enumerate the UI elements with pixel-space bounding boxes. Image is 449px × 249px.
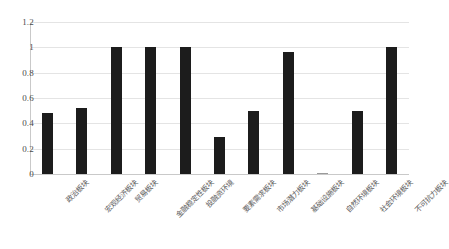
bar xyxy=(76,108,87,174)
y-axis-tick-label: 0.8 xyxy=(4,69,34,78)
bar xyxy=(214,137,225,174)
bar xyxy=(352,111,363,174)
bar xyxy=(283,52,294,174)
x-axis-tick-label-text: 政治板块 xyxy=(65,179,91,205)
gridline xyxy=(30,98,409,99)
x-axis-baseline xyxy=(30,174,409,175)
gridline xyxy=(30,22,409,23)
bar xyxy=(248,111,259,174)
plot-area xyxy=(30,22,409,174)
x-axis-tick-label: 不可抗力板块 xyxy=(413,179,449,215)
y-axis-tick-label: 0 xyxy=(4,170,34,179)
y-axis-tick-label: 0.4 xyxy=(4,119,34,128)
bar xyxy=(145,47,156,174)
y-axis-tick-label: 0.2 xyxy=(4,145,34,154)
y-axis-tick-label: 1 xyxy=(4,43,34,52)
x-axis-tick-label: 要素需求板块 xyxy=(241,179,277,215)
gridline xyxy=(30,47,409,48)
x-axis-tick-label: 政治板块 xyxy=(65,179,91,205)
x-axis-tick-label-text: 市场潜力板块 xyxy=(275,179,311,215)
x-axis-tick-label-text: 社会环境板块 xyxy=(379,179,415,215)
x-axis-tick-label: 基础设施板块 xyxy=(310,179,346,215)
x-axis-tick-label-text: 不可抗力板块 xyxy=(413,179,449,215)
bar xyxy=(317,173,328,175)
bar xyxy=(111,47,122,174)
bar xyxy=(180,47,191,174)
bar xyxy=(386,47,397,174)
gridline xyxy=(30,73,409,74)
x-axis-tick-label-text: 自然环境板块 xyxy=(344,179,380,215)
x-axis-tick-label-text: 基础设施板块 xyxy=(310,179,346,215)
y-axis-tick-label: 1.2 xyxy=(4,18,34,27)
x-axis-tick-label: 市场潜力板块 xyxy=(275,179,311,215)
x-axis-tick-label-text: 要素需求板块 xyxy=(241,179,277,215)
x-axis-tick-label: 自然环境板块 xyxy=(344,179,380,215)
y-axis-tick-label: 0.6 xyxy=(4,94,34,103)
x-axis-tick-label: 社会环境板块 xyxy=(379,179,415,215)
bar xyxy=(42,113,53,174)
